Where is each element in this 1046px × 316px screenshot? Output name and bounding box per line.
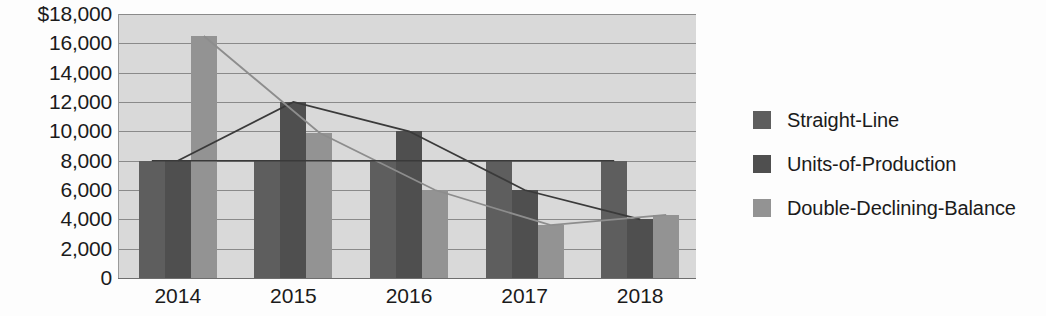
bar-2018-units-of-production xyxy=(627,219,653,278)
y-axis-tick-label: 12,000 xyxy=(0,91,112,112)
bar-2018-double-declining-balance xyxy=(653,215,679,278)
bar-2016-double-declining-balance xyxy=(422,190,448,278)
x-axis-tick-label-2014: 2014 xyxy=(138,284,218,308)
bar-2014-units-of-production xyxy=(165,161,191,278)
legend-swatch-icon xyxy=(753,155,771,173)
chart-legend: Straight-LineUnits-of-ProductionDouble-D… xyxy=(753,98,1046,230)
legend-swatch-icon xyxy=(753,111,771,129)
y-axis: $18,00016,00014,00012,00010,0008,0006,00… xyxy=(0,0,112,316)
y-axis-tick-label: 6,000 xyxy=(0,179,112,200)
bar-2015-double-declining-balance xyxy=(306,133,332,278)
y-axis-tick-label: 4,000 xyxy=(0,208,112,229)
legend-item-label: Double-Declining-Balance xyxy=(787,197,1016,219)
x-axis-tick-label-2015: 2015 xyxy=(253,284,333,308)
x-axis-tick-label-2016: 2016 xyxy=(369,284,449,308)
bar-2015-units-of-production xyxy=(280,102,306,278)
legend-item-label: Units-of-Production xyxy=(787,153,956,175)
bar-2017-double-declining-balance xyxy=(538,225,564,278)
x-axis-line xyxy=(118,278,696,279)
depreciation-comparison-chart: $18,00016,00014,00012,00010,0008,0006,00… xyxy=(0,0,1046,316)
bar-2015-straight-line xyxy=(254,161,280,278)
y-axis-tick-label: $18,000 xyxy=(0,3,112,24)
legend-swatch-icon xyxy=(753,199,771,217)
bar-2016-straight-line xyxy=(370,161,396,278)
bar-2017-straight-line xyxy=(486,161,512,278)
bar-2014-double-declining-balance xyxy=(191,36,217,278)
y-axis-tick-label: 8,000 xyxy=(0,150,112,171)
legend-item-double-declining-balance[interactable]: Double-Declining-Balance xyxy=(753,186,1046,230)
legend-item-units-of-production[interactable]: Units-of-Production xyxy=(753,142,1046,186)
y-axis-tick-label: 0 xyxy=(0,267,112,288)
bar-2017-units-of-production xyxy=(512,190,538,278)
legend-item-straight-line[interactable]: Straight-Line xyxy=(753,98,1046,142)
bar-2014-straight-line xyxy=(139,161,165,278)
bar-2016-units-of-production xyxy=(396,131,422,278)
bar-2018-straight-line xyxy=(601,161,627,278)
bars-layer xyxy=(118,14,696,278)
y-axis-tick-label: 10,000 xyxy=(0,120,112,141)
x-axis-tick-label-2017: 2017 xyxy=(485,284,565,308)
y-axis-tick-label: 14,000 xyxy=(0,62,112,83)
x-axis-tick-label-2018: 2018 xyxy=(600,284,680,308)
y-axis-tick-label: 2,000 xyxy=(0,238,112,259)
legend-item-label: Straight-Line xyxy=(787,109,899,131)
y-axis-tick-label: 16,000 xyxy=(0,32,112,53)
plot-area xyxy=(118,14,696,278)
x-axis: 20142015201620172018 xyxy=(118,284,696,316)
